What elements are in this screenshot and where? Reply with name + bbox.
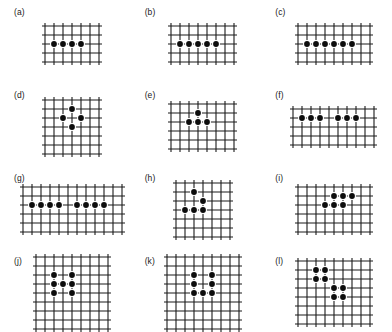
dot xyxy=(205,41,211,47)
dot xyxy=(69,41,75,47)
lattice-e xyxy=(168,101,237,152)
panel-g: (g) xyxy=(0,166,131,249)
panel-grid-i xyxy=(295,184,373,235)
dot xyxy=(191,272,197,278)
panel-label-j: (j) xyxy=(14,257,22,266)
dot xyxy=(331,41,337,47)
panel-grid-l xyxy=(295,258,373,327)
dot xyxy=(69,281,75,287)
lattice-k xyxy=(164,254,242,332)
dot xyxy=(209,272,215,278)
dot xyxy=(209,290,215,296)
dot xyxy=(200,207,206,213)
lattice-d xyxy=(42,97,102,157)
panel-grid-c xyxy=(295,23,373,65)
dot xyxy=(313,276,319,282)
panel-label-a: (a) xyxy=(14,8,25,17)
dot xyxy=(60,115,66,121)
dot xyxy=(74,202,80,208)
dot xyxy=(299,115,305,121)
panel-grid-h xyxy=(173,180,233,240)
dot xyxy=(331,202,337,208)
dot xyxy=(78,41,84,47)
dot xyxy=(51,272,57,278)
dot xyxy=(331,294,337,300)
dot xyxy=(340,41,346,47)
dots-b xyxy=(176,40,220,48)
dot xyxy=(51,41,57,47)
lattice-i xyxy=(295,184,373,235)
dot xyxy=(51,281,57,287)
panel-b: (b) xyxy=(131,0,262,83)
dot xyxy=(205,119,211,125)
dot xyxy=(69,106,75,112)
dot xyxy=(313,267,319,273)
dot xyxy=(200,290,206,296)
dot xyxy=(344,115,350,121)
dot xyxy=(69,272,75,278)
dot xyxy=(60,281,66,287)
grid-lines-l xyxy=(295,258,373,327)
lattice-b xyxy=(168,23,237,65)
lattice-g xyxy=(20,184,125,235)
lattice-c xyxy=(295,23,373,65)
dot xyxy=(322,276,328,282)
panel-grid-f xyxy=(290,106,377,148)
dot xyxy=(340,202,346,208)
dot xyxy=(178,41,184,47)
grid-lines-e xyxy=(168,101,237,152)
dot xyxy=(322,267,328,273)
panel-label-g: (g) xyxy=(14,174,25,183)
panel-c: (c) xyxy=(261,0,392,83)
dot xyxy=(196,110,202,116)
panel-grid-b xyxy=(168,23,237,65)
dot xyxy=(83,202,89,208)
dot xyxy=(196,41,202,47)
dot xyxy=(317,115,323,121)
dot xyxy=(340,285,346,291)
dot xyxy=(200,198,206,204)
dot xyxy=(78,115,84,121)
panel-a: (a) xyxy=(0,0,131,83)
panel-grid-d xyxy=(42,97,102,157)
lattice-l xyxy=(295,258,373,327)
dot xyxy=(47,202,53,208)
dot xyxy=(353,115,359,121)
dot xyxy=(322,41,328,47)
panel-label-c: (c) xyxy=(275,8,285,17)
panel-label-l: (l) xyxy=(275,257,283,266)
panel-f: (f) xyxy=(261,83,392,166)
panel-h: (h) xyxy=(131,166,262,249)
panel-label-e: (e) xyxy=(145,91,156,100)
dot xyxy=(322,202,328,208)
lattice-a xyxy=(42,23,102,65)
dot xyxy=(308,115,314,121)
dot xyxy=(60,41,66,47)
panel-e: (e) xyxy=(131,83,262,166)
dot xyxy=(69,290,75,296)
panel-j: (j) xyxy=(0,249,131,332)
dot xyxy=(191,189,197,195)
dot xyxy=(51,290,57,296)
dot xyxy=(187,119,193,125)
lattice-j xyxy=(33,254,111,332)
dot xyxy=(331,193,337,199)
panel-k: (k) xyxy=(131,249,262,332)
panel-label-k: (k) xyxy=(145,257,155,266)
dot xyxy=(187,41,193,47)
panel-label-h: (h) xyxy=(145,174,156,183)
dot xyxy=(182,207,188,213)
panel-grid-k xyxy=(164,254,242,332)
dot xyxy=(340,294,346,300)
panel-grid-a xyxy=(42,23,102,65)
dot xyxy=(335,115,341,121)
panel-i: (i) xyxy=(261,166,392,249)
dot xyxy=(196,119,202,125)
panel-grid-j xyxy=(33,254,111,332)
dot xyxy=(69,124,75,130)
panel-grid-e xyxy=(168,101,237,152)
dot xyxy=(209,281,215,287)
panel-label-f: (f) xyxy=(275,91,283,100)
dot xyxy=(349,193,355,199)
grid-lines-f xyxy=(290,106,377,148)
